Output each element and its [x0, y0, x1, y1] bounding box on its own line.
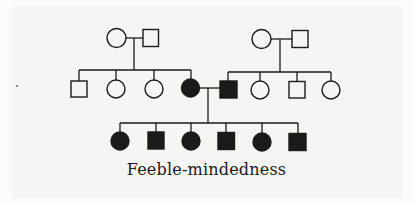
male-unaffected-II-1 [71, 81, 87, 97]
male-unaffected-I-4 [292, 31, 308, 48]
male-affected-III-4 [218, 133, 235, 150]
male-affected-III-6 [289, 134, 306, 151]
female-affected-III-5 [253, 133, 271, 151]
male-affected-III-2 [148, 132, 164, 149]
female-unaffected-II-6 [251, 81, 269, 99]
female-unaffected-II-3 [145, 80, 163, 98]
stray-mark [16, 85, 18, 87]
female-unaffected-II-8 [322, 81, 340, 99]
female-affected-III-1 [111, 132, 129, 150]
male-unaffected-I-2 [143, 30, 159, 47]
female-unaffected-II-2 [107, 80, 125, 98]
pedigree-individuals [71, 29, 340, 152]
female-unaffected-I-1 [107, 29, 126, 48]
male-affected-II-5 [220, 81, 237, 98]
female-unaffected-I-3 [252, 30, 271, 49]
pedigree-figure: Feeble-mindedness [0, 0, 413, 203]
male-unaffected-II-7 [289, 82, 305, 99]
female-affected-II-4 [182, 79, 200, 97]
female-affected-III-3 [182, 132, 200, 150]
figure-caption: Feeble-mindedness [0, 160, 413, 179]
